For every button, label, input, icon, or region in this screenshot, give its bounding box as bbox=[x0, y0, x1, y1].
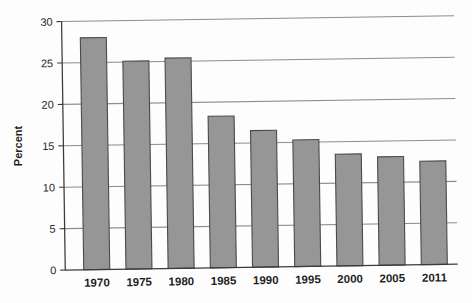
y-axis-title: Percent bbox=[12, 125, 24, 166]
bar[interactable] bbox=[165, 58, 194, 269]
bars-group bbox=[80, 32, 447, 269]
y-tick-label: 20 bbox=[41, 99, 53, 111]
bar[interactable] bbox=[293, 140, 321, 267]
chart-canvas: 051015202530 197019751980198519901995200… bbox=[0, 0, 472, 303]
x-tick-label: 1970 bbox=[84, 276, 110, 288]
bar[interactable] bbox=[251, 130, 279, 267]
y-tick-labels: 051015202530 bbox=[40, 16, 56, 277]
x-tick-label: 1975 bbox=[126, 276, 152, 288]
y-tick-label: 0 bbox=[50, 264, 56, 276]
x-tick-label: 1990 bbox=[253, 274, 279, 286]
gridline bbox=[62, 16, 454, 22]
bar[interactable] bbox=[420, 161, 448, 265]
x-tick-label: 1980 bbox=[168, 275, 194, 287]
y-tick-label: 15 bbox=[42, 140, 54, 152]
bar-chart-figure: 051015202530 197019751980198519901995200… bbox=[0, 0, 472, 303]
bar[interactable] bbox=[335, 154, 363, 266]
y-tick-label: 5 bbox=[49, 223, 55, 235]
y-tick-label: 10 bbox=[43, 181, 55, 193]
x-tick-label: 2000 bbox=[337, 273, 363, 285]
y-tick-label: 30 bbox=[40, 16, 52, 28]
bar[interactable] bbox=[80, 37, 109, 269]
bar[interactable] bbox=[378, 157, 406, 266]
x-tick-labels: 197019751980198519901995200020052011 bbox=[84, 271, 448, 288]
y-tick-label: 25 bbox=[41, 57, 53, 69]
gridline bbox=[63, 99, 455, 105]
x-tick-label: 2005 bbox=[379, 272, 405, 284]
x-tick-label: 1995 bbox=[295, 273, 321, 285]
x-tick-label: 2011 bbox=[422, 271, 448, 283]
bar[interactable] bbox=[123, 61, 152, 269]
gridline bbox=[62, 57, 454, 63]
bar[interactable] bbox=[208, 116, 236, 268]
x-tick-label: 1985 bbox=[211, 275, 237, 287]
